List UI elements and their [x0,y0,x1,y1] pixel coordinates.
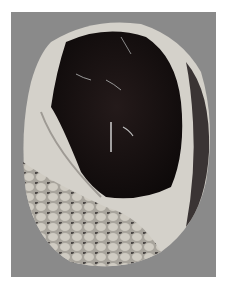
specimen-illustration [11,12,216,277]
specimen-photo [11,12,216,277]
